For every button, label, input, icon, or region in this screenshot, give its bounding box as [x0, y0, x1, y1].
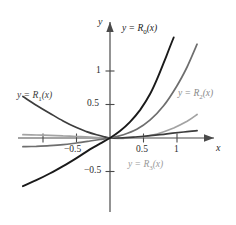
x-tick-label-0point5: 0.5: [136, 145, 148, 155]
y-tick-label-1: 1: [96, 66, 101, 76]
curve-label-r3-suffix: (x): [153, 159, 164, 169]
curve-label-r3-prefix: y = R: [128, 159, 149, 169]
axes-group: [18, 22, 214, 212]
curve-label-r1: y = R1(x): [17, 91, 52, 103]
x-tick-label-1: 1: [174, 145, 179, 155]
curve-label-r0-prefix: y = R: [122, 23, 143, 33]
curve-label-r1-prefix: y = R: [17, 90, 38, 100]
plot-canvas: [0, 0, 236, 225]
y-tick-label-neg-0point5: −0.5: [84, 166, 101, 176]
curve-label-r0: y = R0(x): [122, 24, 157, 36]
x-axis-arrowhead: [204, 134, 214, 142]
chart-figure: 1 0.5 −0.5 0.5 1 −0.5 y x y = R0(x) y = …: [0, 0, 236, 225]
curve-label-r2-prefix: y = R: [178, 88, 199, 98]
curve-label-r2: y = R2(x): [178, 89, 213, 101]
x-axis-label: x: [216, 143, 220, 153]
x-tick-label-neg-0point5: −0.5: [64, 145, 81, 155]
curve-label-r0-suffix: (x): [147, 23, 158, 33]
y-axis-label: y: [98, 17, 102, 27]
y-tick-label-0point5: 0.5: [87, 99, 99, 109]
curve-label-r2-suffix: (x): [203, 88, 214, 98]
curve-label-r3: y = R3(x): [128, 160, 163, 172]
curve-label-r1-suffix: (x): [42, 90, 53, 100]
y-axis-arrowhead: [106, 22, 113, 32]
